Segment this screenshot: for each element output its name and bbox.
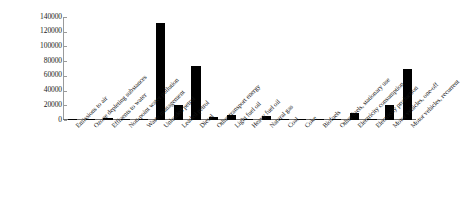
y-axis-tick-mark — [64, 32, 67, 33]
y-axis-tick-mark — [64, 120, 67, 121]
x-axis-category-label: Coke — [303, 114, 318, 129]
y-axis-tick-mark — [64, 91, 67, 92]
x-axis-category-label: Biofuels — [321, 108, 341, 128]
y-axis-tick-mark — [64, 46, 67, 47]
y-axis-tick-mark — [64, 61, 67, 62]
y-axis-tick-mark — [64, 105, 67, 106]
y-axis-tick-mark — [64, 17, 67, 18]
x-axis-category-label: Diesel — [198, 112, 215, 129]
x-axis-category-label: Coal — [286, 115, 300, 129]
y-axis-tick-mark — [64, 76, 67, 77]
